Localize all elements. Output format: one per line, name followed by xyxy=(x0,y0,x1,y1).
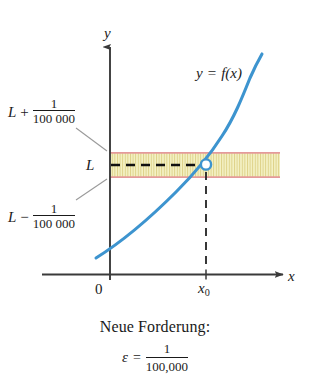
upper-label-fraction: 1 100 000 xyxy=(33,97,75,125)
leader-line-lower xyxy=(76,179,107,200)
curve-label: y=f(x) xyxy=(196,66,242,81)
lower-label-operator: − xyxy=(16,210,32,225)
upper-label-denominator: 100 000 xyxy=(33,111,75,125)
lower-label-denominator: 100 000 xyxy=(33,216,75,230)
upper-label-operator: + xyxy=(16,105,32,120)
caption-title: Neue Forderung: xyxy=(0,318,310,336)
lower-label-base: L xyxy=(8,210,16,225)
lower-label-numerator: 1 xyxy=(33,202,75,216)
x0-tick-label: x0 xyxy=(198,281,210,298)
upper-label-base: L xyxy=(8,105,16,120)
x0-base: x xyxy=(198,280,205,296)
limit-level-label: L xyxy=(86,158,94,173)
curve-label-lhs: y xyxy=(196,65,203,81)
caption-fraction: 1 100,000 xyxy=(146,341,188,375)
leader-line-upper xyxy=(76,128,107,151)
origin-label: 0 xyxy=(95,282,103,297)
upper-label-numerator: 1 xyxy=(33,97,75,111)
lower-label-fraction: 1 100 000 xyxy=(33,202,75,230)
x0-subscript: 0 xyxy=(205,287,210,298)
limit-definition-figure: L+ 1 100 000 L− 1 100 000 L y x 0 x0 y=f… xyxy=(0,0,310,384)
caption: Neue Forderung: ε= 1 100,000 xyxy=(0,318,310,376)
curve-label-function: f(x) xyxy=(221,65,242,81)
caption-numerator: 1 xyxy=(146,341,188,358)
band-lower-bound-label: L− 1 100 000 xyxy=(8,203,75,231)
x-axis-label: x xyxy=(288,269,295,284)
epsilon-symbol: ε xyxy=(122,349,128,365)
y-axis-label: y xyxy=(104,26,111,41)
band-upper-bound-label: L+ 1 100 000 xyxy=(8,98,75,126)
curve-label-equals: = xyxy=(203,65,221,81)
caption-epsilon-equation: ε= 1 100,000 xyxy=(0,342,310,376)
intersection-point-marker xyxy=(201,159,211,169)
caption-equals: = xyxy=(128,350,146,365)
caption-denominator: 100,000 xyxy=(146,358,188,375)
